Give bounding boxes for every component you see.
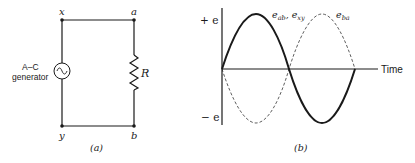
node-b-label: b [131, 130, 137, 141]
node-x-dot [60, 18, 64, 22]
figure-canvas: x a y b A–C generator R (a) + e − e Time… [0, 0, 415, 163]
waveform-chart [222, 8, 378, 125]
generator-label-line2: generator [12, 72, 49, 82]
caption-a: (a) [90, 142, 103, 153]
node-b-dot [132, 124, 136, 128]
resistor-label: R [140, 67, 149, 80]
time-axis-label: Time [381, 64, 403, 75]
y-axis-top-label: + e [200, 14, 218, 26]
node-x-label: x [59, 6, 65, 17]
solid-curve-label: eab, exy [272, 9, 305, 22]
resistor-icon [130, 55, 138, 90]
node-a-dot [132, 18, 136, 22]
caption-b: (b) [294, 142, 308, 153]
node-a-label: a [131, 6, 137, 17]
generator-label-line1: A–C [22, 62, 39, 72]
node-y-dot [60, 124, 64, 128]
node-y-label: y [58, 130, 65, 141]
sine-wave-icon [57, 68, 67, 74]
circuit-diagram [54, 18, 138, 128]
y-axis-bottom-label: − e [201, 111, 219, 123]
dashed-curve-label: eba [336, 9, 350, 22]
